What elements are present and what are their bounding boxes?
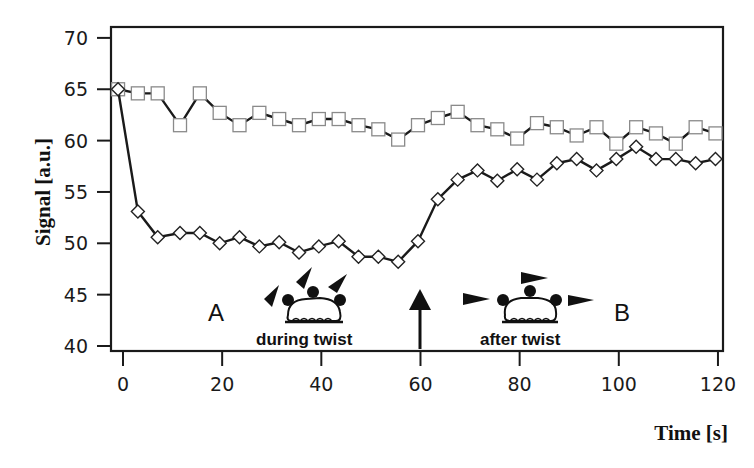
series-diamonds bbox=[112, 83, 722, 269]
x-axis: 020406080100120 bbox=[117, 351, 736, 395]
cell-bead-icon bbox=[497, 285, 562, 322]
y-tick-label: 65 bbox=[64, 78, 88, 100]
square-marker bbox=[213, 106, 226, 119]
series-line bbox=[118, 89, 716, 143]
magnetic-arrowhead-icon bbox=[264, 285, 279, 307]
square-marker bbox=[131, 87, 144, 100]
y-axis-title: Signal [a.u.] bbox=[31, 138, 55, 246]
square-marker bbox=[610, 137, 623, 150]
diamond-marker bbox=[669, 153, 682, 166]
diamond-marker bbox=[273, 236, 286, 249]
diamond-marker bbox=[630, 140, 643, 153]
diamond-marker bbox=[293, 246, 306, 259]
square-marker bbox=[669, 137, 682, 150]
square-marker bbox=[193, 87, 206, 100]
x-tick-label: 40 bbox=[309, 373, 333, 395]
label-b: B bbox=[614, 299, 630, 326]
series-squares bbox=[112, 83, 722, 150]
diamond-marker bbox=[312, 240, 325, 253]
arrow-up-icon bbox=[409, 289, 431, 310]
square-marker bbox=[689, 121, 702, 134]
diamond-marker bbox=[709, 153, 722, 166]
diamond-marker bbox=[372, 250, 385, 263]
caption-during-twist: during twist bbox=[256, 330, 353, 349]
x-tick-label: 120 bbox=[700, 373, 736, 395]
diamond-marker bbox=[511, 163, 524, 176]
square-marker bbox=[412, 119, 425, 132]
diamond-marker bbox=[649, 153, 662, 166]
x-tick-label: 0 bbox=[117, 373, 129, 395]
y-axis: 40455055606570 bbox=[64, 27, 111, 357]
x-tick-label: 20 bbox=[210, 373, 234, 395]
square-marker bbox=[630, 121, 643, 134]
square-marker bbox=[352, 119, 365, 132]
square-marker bbox=[649, 127, 662, 140]
x-axis-title: Time [s] bbox=[654, 421, 728, 445]
square-marker bbox=[570, 129, 583, 142]
annotation-twist-time-arrow bbox=[409, 289, 431, 349]
square-marker bbox=[273, 113, 286, 126]
y-tick-label: 70 bbox=[64, 27, 88, 49]
magnetic-arrowhead-icon bbox=[521, 272, 548, 284]
square-marker bbox=[312, 113, 325, 126]
caption-after-twist: after twist bbox=[480, 330, 561, 349]
square-marker bbox=[550, 121, 563, 134]
square-marker bbox=[511, 132, 524, 145]
square-marker bbox=[151, 87, 164, 100]
diamond-marker bbox=[689, 157, 702, 170]
x-tick-label: 60 bbox=[408, 373, 432, 395]
magnetic-arrowhead-icon bbox=[328, 274, 347, 293]
annotation-after-twist: after twist B bbox=[463, 272, 630, 349]
diamond-marker bbox=[570, 153, 583, 166]
square-marker bbox=[372, 123, 385, 136]
square-marker bbox=[293, 119, 306, 132]
diamond-marker bbox=[471, 164, 484, 177]
diamond-marker bbox=[590, 164, 603, 177]
square-marker bbox=[471, 119, 484, 132]
diamond-marker bbox=[610, 153, 623, 166]
diamond-marker bbox=[253, 240, 266, 253]
square-marker bbox=[392, 133, 405, 146]
y-tick-label: 40 bbox=[64, 335, 88, 357]
y-tick-label: 45 bbox=[64, 284, 88, 306]
diamond-marker bbox=[174, 227, 187, 240]
y-tick-label: 60 bbox=[64, 130, 88, 152]
annotation-during-twist: A during twist bbox=[208, 267, 353, 349]
square-marker bbox=[332, 113, 345, 126]
diamond-marker bbox=[193, 227, 206, 240]
y-tick-label: 55 bbox=[64, 181, 88, 203]
x-tick-label: 100 bbox=[601, 373, 637, 395]
signal-time-chart: 40455055606570 020406080100120 A during … bbox=[0, 0, 754, 468]
square-marker bbox=[431, 112, 444, 125]
square-marker bbox=[491, 123, 504, 136]
magnetic-arrowhead-icon bbox=[296, 267, 312, 289]
square-marker bbox=[590, 121, 603, 134]
diamond-marker bbox=[233, 231, 246, 244]
magnetic-arrowhead-icon bbox=[463, 293, 490, 305]
square-marker bbox=[530, 117, 543, 130]
diamond-marker bbox=[213, 237, 226, 250]
y-tick-label: 50 bbox=[64, 232, 88, 254]
label-a: A bbox=[208, 299, 224, 326]
data-series bbox=[112, 83, 722, 269]
square-marker bbox=[709, 127, 722, 140]
square-marker bbox=[174, 119, 187, 132]
square-marker bbox=[253, 106, 266, 119]
magnetic-arrowhead-icon bbox=[568, 295, 594, 306]
square-marker bbox=[451, 105, 464, 118]
square-marker bbox=[233, 119, 246, 132]
diamond-marker bbox=[491, 174, 504, 187]
x-tick-label: 80 bbox=[508, 373, 532, 395]
